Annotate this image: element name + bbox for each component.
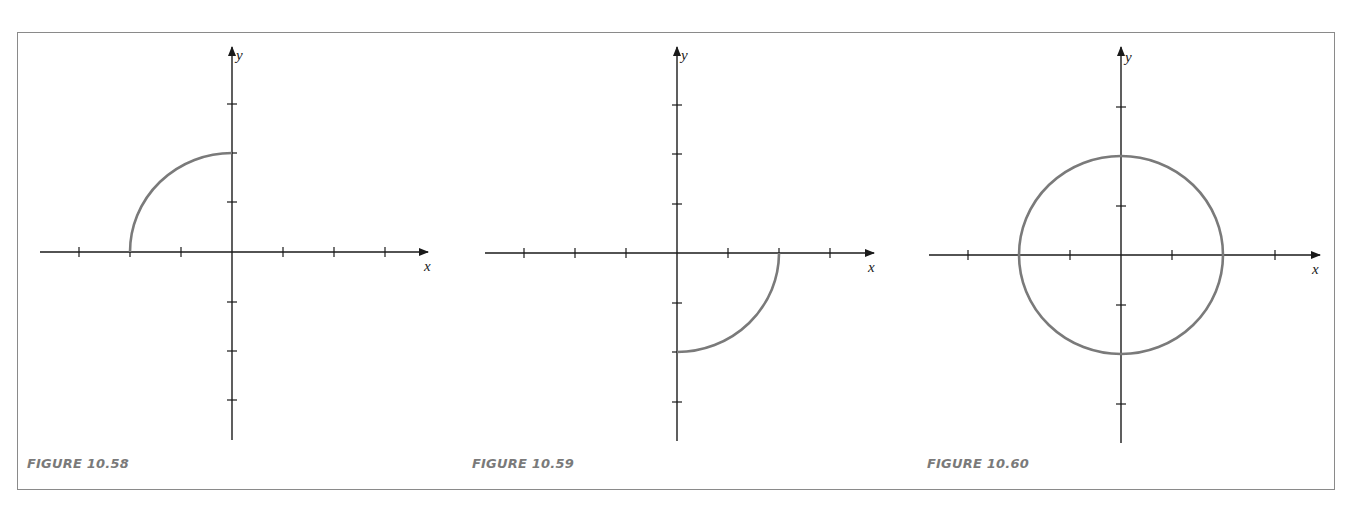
x-axis-label: x	[1311, 261, 1319, 277]
quarter-circle-curve	[677, 253, 779, 352]
figures-canvas: y x y x y x	[0, 0, 1357, 512]
x-axis-label: x	[423, 258, 431, 274]
y-axis-label: y	[1123, 49, 1132, 65]
figure-caption: FIGURE 10.58	[27, 456, 129, 471]
figure-10-60-plot: y x	[929, 47, 1320, 443]
figure-10-59-plot: y x	[485, 47, 875, 441]
figure-caption: FIGURE 10.60	[927, 456, 1029, 471]
y-axis-label: y	[679, 47, 688, 63]
y-axis-label: y	[234, 47, 243, 63]
figure-caption: FIGURE 10.59	[472, 456, 574, 471]
quarter-circle-curve	[130, 153, 232, 252]
x-axis-label: x	[867, 259, 875, 275]
figure-10-58-plot: y x	[40, 47, 431, 440]
